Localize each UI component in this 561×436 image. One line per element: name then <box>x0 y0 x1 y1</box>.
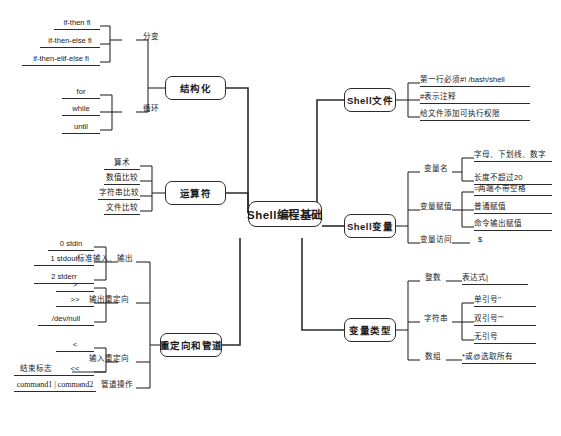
leaf-until[interactable]: until <box>62 123 100 134</box>
link-root-vartype <box>302 238 344 330</box>
label-out-redirect-text: 输出重定向 <box>89 295 129 304</box>
label-array[interactable]: 数组 <box>420 353 446 363</box>
leaf-assign-nospace[interactable]: =两端不带空格 <box>474 185 552 196</box>
link-root-structured <box>226 88 248 213</box>
leaf-lt-text: < <box>73 340 77 349</box>
mindmap-canvas: Shell编程基础 结构化 运算符 重定向和管道 Shell文件 Shell变量… <box>0 0 561 436</box>
leaf-if-then-elif-else-text: if-then-elif-else fi <box>33 54 89 63</box>
leaf-gtgt-text: >> <box>71 295 80 304</box>
leaf-lt[interactable]: < <box>56 341 94 352</box>
leaf-numeric-compare[interactable]: 数值比较 <box>104 174 140 185</box>
leaf-shebang-text: 第一行必须#! /bash/shell <box>420 75 505 84</box>
leaf-if-then-else-text: if-then-else fi <box>48 36 91 45</box>
label-integer[interactable]: 整数 <box>420 274 446 284</box>
label-varassign[interactable]: 变量赋值 <box>420 203 452 213</box>
leaf-varname-length-text: 长度不超过20 <box>474 173 522 182</box>
leaf-assign-command-text: 命令输出赋值 <box>474 219 522 228</box>
leaf-file-compare-text: 文件比较 <box>106 203 138 212</box>
label-pipe[interactable]: 管道操作 <box>96 381 138 391</box>
label-varaccess[interactable]: 变量访问 <box>420 236 452 246</box>
leaf-single-quote[interactable]: 单引号'' <box>474 296 536 307</box>
leaf-if-then-text: if-then fi <box>63 18 90 27</box>
leaf-assign-normal-text: 普通赋值 <box>474 202 506 211</box>
leaf-assign-normal[interactable]: 普通赋值 <box>474 203 552 214</box>
leaf-string-compare-text: 字符串比较 <box>99 188 139 197</box>
node-shellvar[interactable]: Shell变量 <box>344 214 396 238</box>
leaf-for-text: for <box>77 87 86 96</box>
leaf-ltlt[interactable]: << <box>56 365 94 376</box>
leaf-varname-length[interactable]: 长度不超过20 <box>474 174 552 185</box>
leaf-single-quote-text: 单引号'' <box>474 295 501 304</box>
node-shellvar-label: Shell变量 <box>347 219 393 233</box>
link-root-shellfile <box>317 100 344 213</box>
label-varassign-text: 变量赋值 <box>420 202 452 211</box>
leaf-dev-null[interactable]: /dev/null <box>38 315 94 326</box>
label-varaccess-text: 变量访问 <box>420 235 452 244</box>
label-loop[interactable]: 循环 <box>136 105 166 115</box>
leaf-double-quote-text: 双引号"" <box>474 314 503 323</box>
leaf-shebang[interactable]: 第一行必须#! /bash/shell <box>420 76 530 87</box>
leaf-comment[interactable]: #表示注释 <box>420 93 530 104</box>
leaf-while[interactable]: while <box>62 105 100 116</box>
label-branch[interactable]: 分变 <box>136 33 166 43</box>
link-root-redirect <box>222 238 240 345</box>
leaf-if-then[interactable]: if-then fi <box>54 19 100 30</box>
leaf-gtgt[interactable]: >> <box>56 296 94 307</box>
label-branch-text: 分变 <box>143 32 159 41</box>
leaf-pipe-command[interactable]: command1 | command2 <box>14 381 96 392</box>
label-in-redirect-text: 输入重定向 <box>89 354 129 363</box>
node-shellfile[interactable]: Shell文件 <box>344 88 396 112</box>
leaf-array-select-all-text: *或@选取所有 <box>462 352 513 361</box>
leaf-stdin[interactable]: 0 stdin <box>48 240 94 251</box>
leaf-varname-chars-text: 字母、下划线、数字 <box>474 150 546 159</box>
label-array-text: 数组 <box>425 352 441 361</box>
leaf-comment-text: #表示注释 <box>420 92 456 101</box>
node-structured[interactable]: 结构化 <box>165 76 226 100</box>
leaf-no-quote[interactable]: 无引号 <box>474 333 536 344</box>
leaf-end-marker[interactable]: 结束标志 <box>14 365 58 376</box>
leaf-gt-text: > <box>73 280 77 289</box>
leaf-for[interactable]: for <box>62 88 100 99</box>
leaf-double-quote[interactable]: 双引号"" <box>474 315 536 326</box>
leaf-pipe-command-text: command1 | command2 <box>17 380 94 389</box>
leaf-no-quote-text: 无引号 <box>474 332 498 341</box>
leaf-ltlt-text: << <box>71 364 80 373</box>
label-varname-text: 变量名 <box>424 164 448 173</box>
leaf-file-compare[interactable]: 文件比较 <box>104 204 140 215</box>
leaf-varaccess-dollar[interactable]: $ <box>470 236 490 246</box>
node-operators[interactable]: 运算符 <box>165 181 226 205</box>
label-string[interactable]: 字符串 <box>420 315 452 325</box>
root-node[interactable]: Shell编程基础 <box>248 201 322 227</box>
leaf-integer-expr-text: 表达式| <box>462 273 488 282</box>
leaf-varname-chars[interactable]: 字母、下划线、数字 <box>474 151 552 162</box>
leaf-if-then-else[interactable]: if-then-else fi <box>40 37 100 48</box>
leaf-stdout-text: 1 stdout <box>50 254 77 263</box>
node-redirect[interactable]: 重定向和管道 <box>160 333 222 357</box>
label-in-redirect[interactable]: 输入重定向 <box>82 355 136 365</box>
label-integer-text: 整数 <box>425 273 441 282</box>
leaf-stdin-text: 0 stdin <box>60 239 82 248</box>
leaf-arithmetic[interactable]: 算术 <box>104 159 140 170</box>
node-redirect-label: 重定向和管道 <box>160 338 223 352</box>
leaf-gt[interactable]: > <box>56 281 94 292</box>
leaf-exec-permission[interactable]: 给文件添加可执行权限 <box>420 110 530 121</box>
node-vartype[interactable]: 变量类型 <box>344 318 396 342</box>
leaf-string-compare[interactable]: 字符串比较 <box>98 189 140 200</box>
node-vartype-label: 变量类型 <box>349 323 391 337</box>
leaf-assign-command[interactable]: 命令输出赋值 <box>474 220 552 231</box>
leaf-stdout[interactable]: 1 stdout <box>34 255 94 266</box>
leaf-numeric-compare-text: 数值比较 <box>106 173 138 182</box>
leaf-until-text: until <box>74 122 88 131</box>
leaf-dev-null-text: /dev/null <box>52 314 80 323</box>
leaf-exec-permission-text: 给文件添加可执行权限 <box>420 109 500 118</box>
node-shellfile-label: Shell文件 <box>347 93 393 107</box>
node-structured-label: 结构化 <box>180 81 212 95</box>
label-string-text: 字符串 <box>424 314 448 323</box>
leaf-if-then-elif-else[interactable]: if-then-elif-else fi <box>22 55 100 66</box>
leaf-integer-expr[interactable]: 表达式| <box>462 274 528 285</box>
leaf-array-select-all[interactable]: *或@选取所有 <box>462 353 536 364</box>
label-varname[interactable]: 变量名 <box>420 165 452 175</box>
node-operators-label: 运算符 <box>180 186 212 200</box>
root-node-label: Shell编程基础 <box>247 206 323 222</box>
leaf-while-text: while <box>72 104 89 113</box>
